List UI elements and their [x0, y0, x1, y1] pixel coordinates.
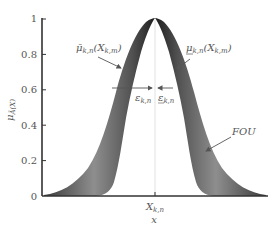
upper-mf-pointer: [98, 57, 121, 68]
y-tick-0: 0: [31, 191, 37, 202]
eps-upper-label: εk,n: [135, 92, 152, 105]
x-center-tick-label: Xk,n: [145, 201, 165, 214]
lower-mf-label: μk,n(Xk,m): [186, 42, 232, 55]
svg-text:μÃ(X): μÃ(X): [4, 99, 17, 121]
y-tick-0.6: 0.6: [21, 84, 37, 95]
y-tick-1: 1: [31, 13, 37, 24]
x-axis-label: x: [151, 214, 157, 225]
upper-mf-label: μ̄k,n(Xk,m): [76, 42, 122, 55]
fou-label: FOU: [231, 126, 256, 137]
y-tick-0.4: 0.4: [21, 120, 37, 131]
y-tick-0.2: 0.2: [21, 155, 37, 166]
y-axis-label: μÃ(X): [4, 99, 17, 121]
type2-membership-chart: 1 0.8 0.6 0.4 0.2 0 μÃ(X) Xk,n x μ̄k,n(X…: [0, 0, 280, 234]
y-tick-0.8: 0.8: [21, 49, 37, 60]
